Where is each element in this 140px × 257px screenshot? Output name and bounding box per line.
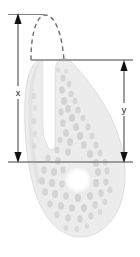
dimension-y-label: y <box>122 105 127 115</box>
dimension-x: x <box>13 13 24 163</box>
nucleus-halo <box>66 168 91 193</box>
dashed-arc <box>31 15 64 60</box>
dimension-x-label: x <box>16 88 21 98</box>
figure-canvas: x y <box>0 0 140 257</box>
organism-outline <box>25 58 125 237</box>
dimension-y-arrowhead-top <box>120 60 127 71</box>
diagram-svg: x y <box>0 0 140 257</box>
organism-body-group <box>25 58 125 237</box>
